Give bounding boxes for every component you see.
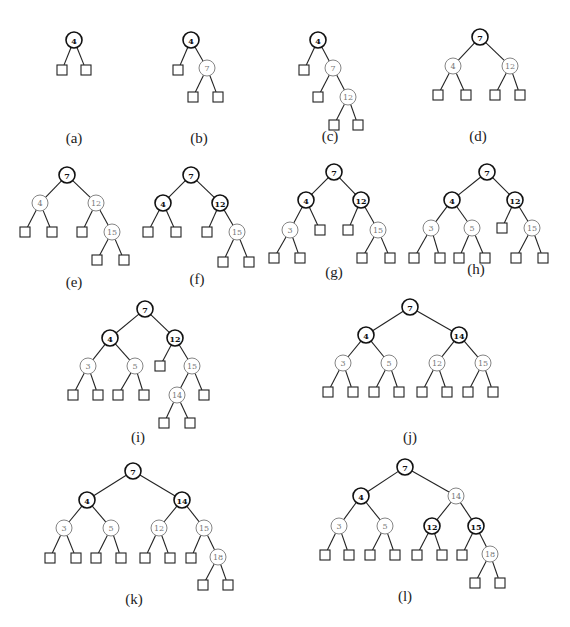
nil-leaf [442,387,452,397]
tree-node-red: 4 [32,195,48,211]
nil-leaf [139,390,149,400]
nil-leaf [244,257,254,267]
nil-leaf [490,90,500,100]
tree-edge [434,206,447,223]
nil-leaf [140,553,150,563]
tree-edge [365,237,374,253]
nil-leaf [155,361,165,371]
tree-node-red: 3 [423,220,439,236]
nil-leaf [116,553,126,563]
tree-edge [240,239,247,256]
nil-leaf [218,257,228,267]
tree-edge [114,536,120,553]
tree-edge [513,74,519,90]
tree-edge [224,210,234,227]
tree-node-black: 14 [174,492,190,508]
nil-leaf [497,223,507,233]
node-key: 7 [64,171,70,181]
tree-edge [519,235,529,253]
node-key: 15 [232,228,242,237]
nil-leaf [437,550,447,560]
tree-edge [441,73,450,90]
tree-node-black: 15 [468,518,484,534]
node-key: 14 [453,331,465,341]
panel-caption: (a) [66,130,83,147]
tree-edge [151,210,160,227]
tree-edge [435,502,451,521]
tree-edge [147,535,155,553]
node-key: 15 [527,224,537,233]
tree-edge [209,210,216,227]
nil-leaf [223,580,233,590]
tree-edge [28,210,37,227]
node-key: 4 [71,36,77,46]
node-key: 7 [188,171,194,181]
tree-edge [331,370,340,387]
tree-node-black: 7 [183,167,199,183]
node-key: 3 [85,362,90,371]
nil-leaf [369,387,379,397]
node-key: 4 [188,36,194,46]
tree-edge [306,47,314,65]
tree-node-black: 4 [183,32,199,48]
tree-node-black: 4 [358,327,374,343]
nil-leaf [299,65,309,75]
node-key: 12 [91,199,101,208]
tree-node-red: 5 [381,355,397,371]
nil-leaf [454,253,464,263]
node-key: 14 [176,496,188,506]
nil-leaf [315,225,325,235]
node-key: 15 [373,226,383,235]
tree-node-black: 7 [479,164,495,180]
nil-leaf [538,253,548,263]
tree-edge [162,536,168,553]
node-key: 4 [84,496,90,506]
tree-edge [98,535,107,553]
tree-edge [420,533,429,550]
tree-edge [342,502,356,521]
tree-edge [493,178,511,196]
tree-node-red: 5 [127,358,143,374]
tree-edge [52,535,60,553]
nil-leaf [71,553,81,563]
node-key: 7 [402,463,408,473]
tree-node-red: 12 [502,58,518,74]
nil-leaf [461,90,471,100]
nil-leaf [515,90,525,100]
panel-caption: (j) [403,429,417,446]
tree-node-red: 18 [482,546,498,562]
node-key: 15 [478,359,488,368]
nil-leaf [173,65,183,75]
nil-leaf [199,390,209,400]
tree-edge [351,105,356,120]
node-key: 15 [187,362,197,371]
tree-edge [493,562,499,578]
node-key: 5 [108,524,113,533]
node-key: 12 [169,334,180,344]
tree-edge [166,402,173,418]
tree-edge [84,210,92,227]
tree-node-red: 7 [199,60,215,76]
tree-node-black: 12 [353,192,369,208]
tree-edge [464,533,472,550]
nil-leaf [313,92,323,102]
node-key: 3 [287,226,292,235]
tree-edge [321,75,330,92]
tree-edge [67,535,74,552]
tree-edge [388,534,394,550]
tree-node-black: 4 [155,195,171,211]
panel-caption: (f) [190,271,205,288]
tree-panel-i: 7412351514(i) [68,301,209,446]
tree-edge [163,345,172,361]
nil-leaf [457,550,467,560]
nil-leaf [463,387,473,397]
node-key: 7 [204,64,209,73]
node-key: 3 [428,224,433,233]
tree-node-red: 15 [475,355,491,371]
tree-node-black: 12 [507,192,523,208]
panel-caption: (l) [398,588,412,605]
nil-leaf [68,390,78,400]
tree-edge [373,533,382,550]
nil-leaf [433,90,443,100]
tree-edge [114,314,139,334]
